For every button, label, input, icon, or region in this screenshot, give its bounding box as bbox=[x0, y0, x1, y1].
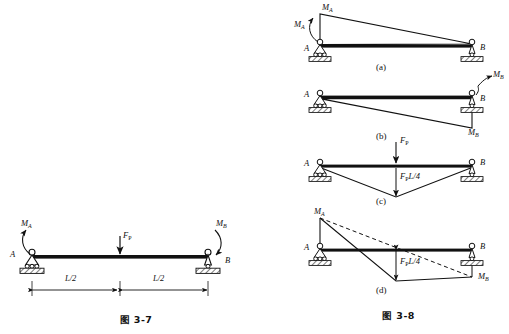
moment-arrow-left bbox=[23, 230, 30, 254]
support-pin-left bbox=[20, 249, 44, 273]
support-pin-right bbox=[196, 249, 220, 273]
panel-tag-a: (a) bbox=[376, 62, 386, 72]
support-pin-left-a bbox=[309, 39, 331, 61]
panel-tag-b: (b) bbox=[376, 131, 387, 141]
panel-tag-c: (c) bbox=[376, 196, 386, 206]
panel-c bbox=[309, 142, 483, 197]
dimension-line bbox=[32, 281, 208, 296]
figure-3-8-caption: 图 3-8 bbox=[288, 308, 509, 322]
label-b-applied-moment: MB bbox=[493, 70, 504, 79]
panel-b bbox=[309, 76, 492, 128]
figure-3-7-caption: 图 3-7 bbox=[0, 312, 272, 326]
label-a-support-a: A bbox=[304, 44, 309, 53]
label-d-moment-ma: MA bbox=[314, 207, 325, 216]
label-support-a: A bbox=[10, 250, 15, 259]
figure-3-8: MA MA A B (a) MB MB A B (b) FP FPL/4 A B… bbox=[288, 0, 509, 334]
support-pin-left-b bbox=[309, 90, 331, 112]
label-dim-right: L/2 bbox=[153, 274, 164, 283]
moment-arrow-right bbox=[215, 230, 221, 255]
label-c-support-b: B bbox=[480, 158, 485, 167]
label-d-support-a: A bbox=[304, 243, 309, 252]
label-b-support-a: A bbox=[304, 90, 309, 99]
panel-a bbox=[309, 14, 483, 61]
label-load-fp: FP bbox=[123, 231, 132, 240]
label-d-ordinate-fpl4: FPL/4 bbox=[400, 257, 420, 266]
label-moment-mb: MB bbox=[216, 219, 227, 228]
label-a-ordinate-ma: MA bbox=[322, 3, 333, 12]
label-a-support-b: B bbox=[480, 43, 485, 52]
figure-3-8-drawing bbox=[288, 0, 509, 310]
beam-member bbox=[32, 255, 208, 259]
panel-d bbox=[309, 218, 483, 281]
label-a-applied-moment: MA bbox=[294, 20, 305, 29]
label-c-ordinate-fpl4: FPL/4 bbox=[400, 172, 420, 181]
label-b-support-b: B bbox=[480, 94, 485, 103]
label-b-ordinate-mb: MB bbox=[468, 128, 479, 137]
support-pin-left-d bbox=[309, 243, 331, 265]
label-d-moment-mb: MB bbox=[478, 272, 489, 281]
panel-tag-d: (d) bbox=[376, 285, 387, 295]
label-dim-left: L/2 bbox=[65, 274, 76, 283]
label-support-b: B bbox=[225, 256, 230, 265]
label-c-support-a: A bbox=[304, 159, 309, 168]
label-moment-ma: MA bbox=[21, 219, 32, 228]
label-d-support-b: B bbox=[480, 242, 485, 251]
label-c-load-fp: FP bbox=[400, 136, 409, 145]
